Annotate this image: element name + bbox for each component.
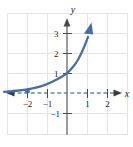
x-tick-label-1: 1 bbox=[85, 99, 90, 109]
y-axis-name: y bbox=[70, 4, 76, 15]
curve-endpoint-dot bbox=[25, 89, 30, 94]
x-tick-label-neg2: −2 bbox=[23, 99, 33, 109]
x-tick-label-2: 2 bbox=[105, 99, 110, 109]
y-tick-label-1: 1 bbox=[54, 69, 59, 79]
y-tick-label-neg1: −1 bbox=[50, 109, 60, 119]
x-tick-label-neg1: −1 bbox=[43, 99, 53, 109]
y-tick-label-2: 2 bbox=[54, 49, 59, 59]
plot-canvas: 3 2 1 −1 −2 −1 1 2 y x bbox=[0, 0, 133, 147]
graph-figure: 3 2 1 −1 −2 −1 1 2 y x bbox=[0, 0, 133, 147]
y-tick-label-3: 3 bbox=[54, 29, 59, 39]
x-axis-name: x bbox=[124, 88, 130, 99]
